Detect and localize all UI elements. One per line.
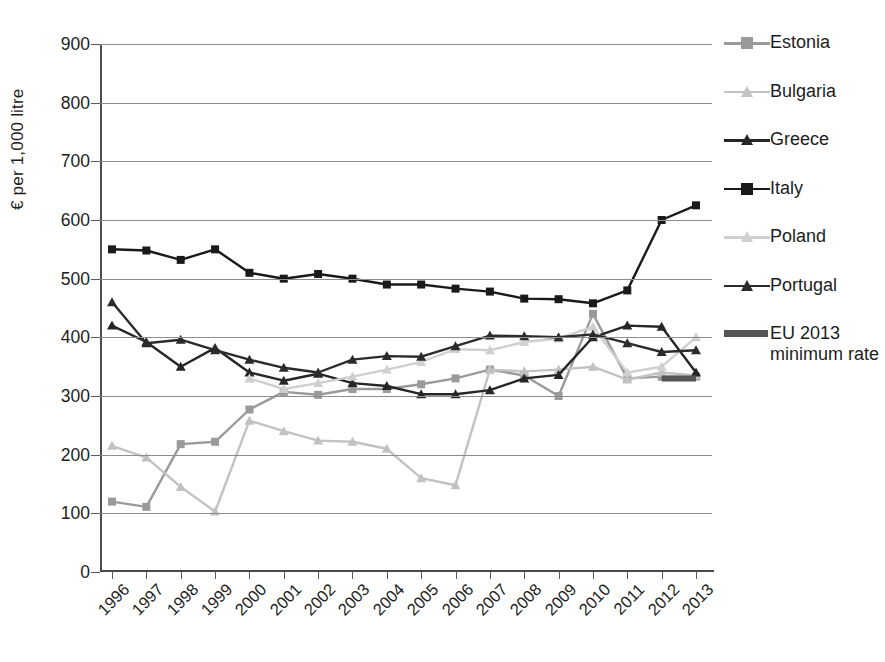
legend-item-greece[interactable]: Greece	[724, 129, 884, 150]
y-tick-label: 300	[35, 386, 90, 407]
gridline	[100, 279, 712, 280]
y-tick-mark	[91, 279, 100, 280]
legend-swatch-icon	[724, 131, 770, 149]
gridline	[100, 103, 712, 104]
gridline	[100, 44, 712, 45]
legend-item-poland[interactable]: Poland	[724, 226, 884, 247]
y-tick-label: 0	[35, 562, 90, 583]
y-tick-label: 600	[35, 210, 90, 231]
y-tick-label: 200	[35, 444, 90, 465]
series-poland	[244, 322, 701, 393]
legend-item-eu-2013-minimum-rate[interactable]: EU 2013 minimum rate	[724, 323, 884, 365]
gridline	[100, 337, 712, 338]
chart-legend: EstoniaBulgariaGreeceItalyPolandPortugal…	[724, 32, 884, 365]
y-axis-title: € per 1,000 litre	[8, 10, 28, 210]
y-tick-mark	[91, 103, 100, 104]
legend-item-bulgaria[interactable]: Bulgaria	[724, 81, 884, 102]
y-tick-label: 800	[35, 92, 90, 113]
gridline	[100, 455, 712, 456]
y-tick-label: 900	[35, 34, 90, 55]
series-bulgaria	[107, 362, 701, 516]
series-layer	[100, 44, 712, 572]
legend-label: EU 2013 minimum rate	[770, 323, 884, 365]
legend-label: Bulgaria	[770, 81, 836, 102]
legend-swatch-icon	[724, 83, 770, 101]
legend-swatch-icon	[724, 277, 770, 295]
legend-item-italy[interactable]: Italy	[724, 178, 884, 199]
plot-area	[100, 44, 712, 572]
legend-swatch-icon	[724, 180, 770, 198]
y-tick-label: 700	[35, 151, 90, 172]
legend-item-portugal[interactable]: Portugal	[724, 275, 884, 296]
legend-label: Italy	[770, 178, 803, 199]
series-italy	[108, 201, 700, 307]
y-tick-mark	[91, 396, 100, 397]
legend-label: Estonia	[770, 32, 830, 53]
legend-swatch-icon	[724, 325, 770, 343]
gridline	[100, 396, 712, 397]
y-tick-label: 400	[35, 327, 90, 348]
y-tick-mark	[91, 337, 100, 338]
chart-root: € per 1,000 litre 0100200300400500600700…	[0, 0, 885, 662]
legend-label: Poland	[770, 226, 826, 247]
y-tick-mark	[91, 513, 100, 514]
legend-swatch-icon	[724, 34, 770, 52]
legend-swatch-icon	[724, 228, 770, 246]
legend-label: Portugal	[770, 275, 837, 296]
x-axis-tick-labels: 1996199719981999200020012002200320042005…	[100, 576, 740, 662]
gridline	[100, 513, 712, 514]
y-tick-mark	[91, 220, 100, 221]
y-tick-mark	[91, 161, 100, 162]
y-axis-tick-labels: 0100200300400500600700800900	[32, 0, 90, 662]
gridline	[100, 161, 712, 162]
y-tick-mark	[91, 455, 100, 456]
y-tick-mark	[91, 572, 100, 573]
y-tick-label: 100	[35, 503, 90, 524]
legend-item-estonia[interactable]: Estonia	[724, 32, 884, 53]
legend-label: Greece	[770, 129, 829, 150]
gridline	[100, 220, 712, 221]
y-tick-label: 500	[35, 268, 90, 289]
y-tick-mark	[91, 44, 100, 45]
